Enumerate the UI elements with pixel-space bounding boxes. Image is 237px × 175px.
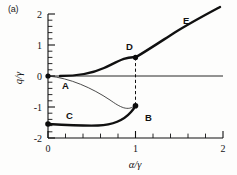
x-axis-title: α/γ: [129, 159, 142, 170]
point-label-a: A: [62, 80, 69, 91]
y-tick-label-neg1: -1: [34, 102, 42, 113]
x-tick-label-0: 0: [46, 143, 51, 154]
point-label-d: D: [126, 41, 133, 52]
point-b-marker: [133, 103, 139, 109]
x-tick-label-1: 1: [133, 143, 138, 154]
point-label-b: B: [145, 112, 152, 123]
y-tick-label-2: 2: [37, 9, 42, 20]
y-tick-label-1: 1: [37, 40, 42, 51]
upper-stable-branch: [60, 7, 220, 76]
lower-stable-branch: [48, 106, 136, 126]
x-tick-label-2: 2: [221, 143, 226, 154]
point-label-c: C: [66, 110, 73, 121]
y-tick-label-0: 0: [37, 71, 42, 82]
y-axis-title: q/γ: [13, 71, 24, 84]
y-tick-label-neg2: -2: [34, 133, 42, 144]
bifurcation-figure: (a): [0, 0, 237, 175]
point-label-e: E: [183, 15, 189, 26]
plot-canvas: 2 1 0 -1 -2 0 1 2 α/γ q/γ A B C D E: [0, 0, 237, 175]
point-c-marker: [45, 121, 51, 127]
point-d-marker: [133, 55, 138, 60]
point-a-marker: [45, 73, 50, 78]
